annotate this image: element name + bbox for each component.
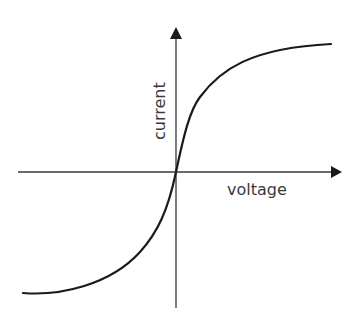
iv-diagram: current voltage [0,0,354,329]
iv-curve [23,44,331,293]
x-axis-arrow-icon [331,166,342,178]
y-axis-label: current [150,82,169,140]
x-axis-label: voltage [227,180,287,199]
y-axis-arrow-icon [170,27,182,39]
